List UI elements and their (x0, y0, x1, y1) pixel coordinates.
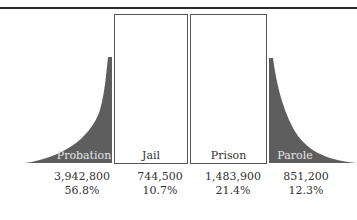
probation-percent: 56.8% (40, 184, 124, 198)
parole-label: Parole (269, 149, 321, 162)
prison-percent: 21.4% (193, 184, 273, 198)
jail-box (114, 14, 188, 164)
jail-count: 744,500 (120, 170, 200, 184)
parole-count: 851,200 (271, 170, 341, 184)
prison-box (190, 14, 267, 164)
jail-label: Jail (114, 149, 188, 162)
parole-curve-shape (269, 58, 356, 163)
prison-count: 1,483,900 (193, 170, 273, 184)
probation-label: Probation (54, 149, 114, 162)
jail-percent: 10.7% (120, 184, 200, 198)
parole-percent: 12.3% (271, 184, 341, 198)
prison-label: Prison (190, 149, 267, 162)
probation-count: 3,942,800 (40, 170, 124, 184)
probation-curve-shape (25, 57, 112, 163)
